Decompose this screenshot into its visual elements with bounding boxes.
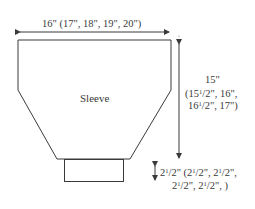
cuff-measurement-line1: 21/2" (21/2", 21/2",	[160, 165, 237, 179]
length-measurement-line3: 161/2", 17")	[188, 98, 238, 112]
cuff-outline	[65, 160, 124, 182]
width-measurement-label: 16" (17", 18", 19", 20")	[42, 18, 141, 30]
cuff-measurement-line2: 21/2", 21/2", )	[172, 178, 228, 192]
piece-label: Sleeve	[80, 92, 109, 104]
length-measurement-line1: 15"	[205, 74, 220, 86]
